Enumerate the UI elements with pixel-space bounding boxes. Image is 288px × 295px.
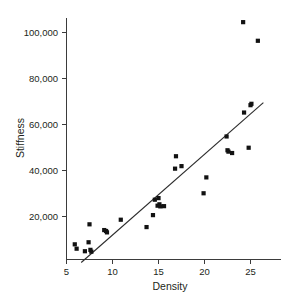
y-tick-label-40000: 40,000 [29, 165, 58, 176]
data-point [241, 20, 245, 24]
data-point [87, 222, 91, 226]
x-tick-label-15: 15 [153, 266, 164, 277]
data-point [249, 102, 253, 106]
data-point [174, 154, 178, 158]
data-point [158, 204, 162, 208]
data-point [201, 191, 205, 195]
data-point [119, 218, 123, 222]
data-point [153, 198, 157, 202]
x-axis-ticks [67, 260, 251, 265]
data-point [179, 164, 183, 168]
data-point [226, 150, 230, 154]
data-point [156, 196, 160, 200]
data-point [162, 204, 166, 208]
y-axis-tick-labels: 20,000 40,000 60,000 80,000 100,000 [24, 27, 58, 222]
data-point [73, 242, 77, 246]
x-tick-label-25: 25 [245, 266, 256, 277]
regression-line [81, 103, 263, 263]
scatter-plot-figure: 20,000 40,000 60,000 80,000 100,000 5 10… [0, 0, 288, 295]
x-tick-label-5: 5 [64, 266, 69, 277]
data-point [173, 167, 177, 171]
data-point [247, 146, 251, 150]
data-point [230, 151, 234, 155]
data-point [151, 213, 155, 217]
x-tick-label-20: 20 [199, 266, 210, 277]
y-axis-title: Stiffness [14, 118, 26, 158]
y-tick-label-20000: 20,000 [29, 211, 58, 222]
plot-canvas: 20,000 40,000 60,000 80,000 100,000 5 10… [0, 0, 288, 295]
data-point [75, 247, 79, 251]
data-point [86, 240, 90, 244]
y-tick-label-80000: 80,000 [29, 73, 58, 84]
data-point [256, 39, 260, 43]
data-point [242, 110, 246, 114]
data-point-group [73, 20, 260, 254]
y-tick-label-100000: 100,000 [24, 27, 58, 38]
x-axis-title: Density [152, 280, 188, 292]
data-point [224, 134, 228, 138]
data-point [204, 175, 208, 179]
data-point [89, 250, 93, 254]
x-tick-label-10: 10 [107, 266, 118, 277]
data-point [105, 230, 109, 234]
y-axis-ticks [62, 33, 67, 217]
data-point [83, 249, 87, 253]
data-point [144, 225, 148, 229]
y-tick-label-60000: 60,000 [29, 119, 58, 130]
x-axis-tick-labels: 5 10 15 20 25 [64, 266, 256, 277]
